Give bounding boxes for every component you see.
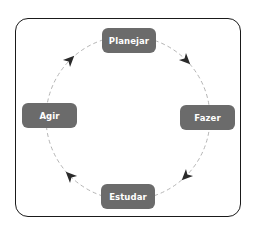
node-label: Planejar	[109, 36, 149, 46]
node-agir: Agir	[22, 103, 77, 128]
node-fazer: Fazer	[180, 105, 235, 130]
node-label: Estudar	[109, 192, 147, 202]
node-estudar: Estudar	[101, 184, 155, 209]
node-planejar: Planejar	[102, 28, 156, 53]
node-label: Agir	[39, 111, 59, 121]
node-label: Fazer	[194, 113, 220, 123]
arrow-estudar-agir-icon	[62, 168, 77, 183]
